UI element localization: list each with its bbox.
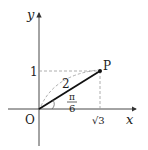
- point-label: P: [103, 59, 111, 73]
- length-label: 2: [62, 77, 70, 91]
- x-axis-label: x: [126, 112, 134, 127]
- origin-label: O: [25, 113, 35, 127]
- angle-denominator: 6: [69, 103, 75, 114]
- y-axis-label: y: [26, 7, 35, 22]
- y-tick-label: 1: [30, 65, 38, 79]
- angle-numerator: π: [69, 92, 75, 102]
- coordinate-diagram: y x O P 1 √3 2 π 6: [0, 0, 148, 150]
- x-tick-label: √3: [92, 115, 105, 126]
- point-p: [98, 69, 102, 73]
